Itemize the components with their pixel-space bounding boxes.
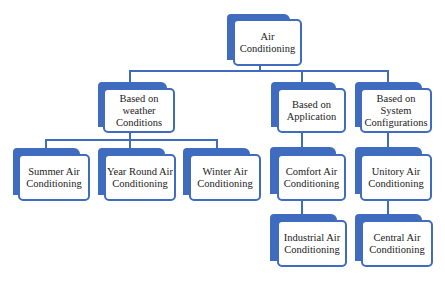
node-box: Based on Application — [277, 88, 346, 133]
connector-unitory-to-central — [387, 201, 389, 215]
connector-to-application — [301, 70, 303, 82]
node-label: Based on System Configurations — [365, 93, 428, 129]
node-box: Central Air Conditioning — [361, 220, 433, 267]
node-box: Year Round Air Conditioning — [104, 154, 176, 201]
node-box: Comfort Air Conditioning — [277, 154, 346, 201]
connector-to-weather — [129, 70, 131, 82]
node-label: Industrial Air Conditioning — [284, 232, 340, 256]
node-label: Summer Air Conditioning — [26, 166, 81, 190]
node-label: Winter Air Conditioning — [197, 166, 252, 190]
node-box: Industrial Air Conditioning — [277, 220, 347, 267]
node-box: Summer Air Conditioning — [18, 154, 90, 201]
node-box: Based on System Configurations — [360, 88, 432, 133]
node-box: Based on weather Conditions — [103, 88, 175, 133]
node-box: Air Conditioning — [233, 19, 302, 66]
connector-comfort-to-industrial — [301, 201, 303, 215]
connector-application-to-comfort — [301, 133, 303, 148]
connector-system-to-unitory — [387, 133, 389, 148]
node-label: Based on weather Conditions — [116, 93, 162, 129]
node-label: Central Air Conditioning — [369, 232, 424, 256]
node-label: Comfort Air Conditioning — [284, 166, 339, 190]
node-label: Year Round Air Conditioning — [107, 166, 173, 190]
node-label: Air Conditioning — [240, 31, 295, 55]
node-box: Winter Air Conditioning — [189, 154, 261, 201]
connector-level1-horizontal — [129, 70, 389, 72]
node-label: Based on Application — [287, 99, 337, 123]
connector-to-system — [387, 70, 389, 82]
node-label: Unitory Air Conditioning — [368, 166, 423, 190]
connector-level2-horizontal — [45, 139, 218, 141]
node-box: Unitory Air Conditioning — [360, 154, 432, 201]
